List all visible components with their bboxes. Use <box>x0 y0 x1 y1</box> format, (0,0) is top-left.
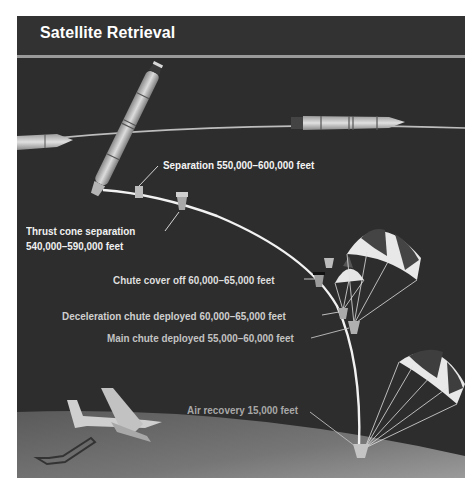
leader-deceleration <box>322 312 339 315</box>
leader-thrust-cone <box>165 212 179 231</box>
satellite-retrieval-panel: Satellite Retrieval <box>17 16 465 478</box>
label-separation: Separation 550,000–600,000 feet <box>163 158 314 172</box>
chute-cover-capsule-icon <box>313 258 334 287</box>
rocket-left-icon <box>17 134 73 150</box>
label-chute-cover-off: Chute cover off 60,000–65,000 feet <box>113 273 275 287</box>
label-deceleration-chute: Deceleration chute deployed 60,000–65,00… <box>62 309 286 323</box>
rocket-upper-icon <box>88 60 165 197</box>
rocket-right-icon <box>291 116 405 130</box>
leader-main-chute <box>311 328 349 338</box>
separation-capsule-icon <box>135 186 143 198</box>
label-thrust-cone-line1: Thrust cone separation <box>26 224 135 238</box>
leader-separation <box>139 166 158 186</box>
thrust-cone-icon <box>176 192 188 210</box>
label-air-recovery: Air recovery 15,000 feet <box>187 403 298 417</box>
label-thrust-cone-line2: 540,000–590,000 feet <box>26 239 123 253</box>
main-chute-icon <box>347 229 421 334</box>
drogue-chute-icon <box>335 256 364 319</box>
orbit-line <box>17 126 465 142</box>
label-main-chute: Main chute deployed 55,000–60,000 feet <box>107 331 294 345</box>
